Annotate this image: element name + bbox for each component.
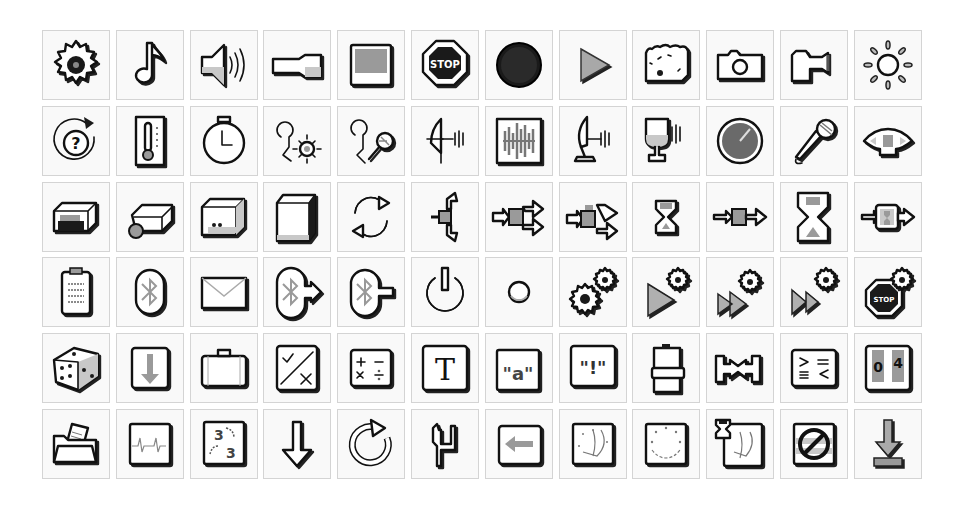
icon-cell-wait[interactable]	[854, 182, 922, 252]
download-arrow-icon	[860, 416, 916, 472]
icon-cell-compare[interactable]	[780, 333, 848, 403]
icon-cell-small-circle[interactable]	[485, 257, 553, 327]
icon-cell-prohibited[interactable]	[780, 409, 848, 479]
icon-cell-download[interactable]	[854, 409, 922, 479]
icon-cell-exclamation-text[interactable]: "!"	[559, 333, 627, 403]
brick-servo-icon	[122, 189, 178, 245]
icon-cell-timed-curve-graph[interactable]	[706, 409, 774, 479]
icon-cell-battery[interactable]	[632, 333, 700, 403]
icon-cell-briefcase[interactable]	[190, 333, 258, 403]
icon-cell-camera[interactable]	[706, 30, 774, 100]
text-t-label: T	[435, 352, 455, 387]
icon-cell-loop[interactable]	[337, 182, 405, 252]
icon-cell-power[interactable]	[411, 257, 479, 327]
icon-cell-step-shape[interactable]	[411, 409, 479, 479]
icon-cell-number-convert[interactable]: 33	[190, 409, 258, 479]
icon-cell-stop-gear[interactable]: STOP	[854, 257, 922, 327]
icon-cell-gear[interactable]	[42, 30, 110, 100]
icon-cell-stop-sign[interactable]: STOP	[411, 30, 479, 100]
icon-cell-sound-sensor[interactable]	[337, 106, 405, 176]
step-shape-icon	[417, 416, 473, 472]
icon-cell-ultrasonic[interactable]	[411, 106, 479, 176]
icon-cell-hourglass-small[interactable]	[632, 182, 700, 252]
text-t-icon: T	[417, 340, 473, 396]
stop-gear-icon: STOP	[860, 264, 916, 320]
icon-cell-sound-wave[interactable]	[485, 106, 553, 176]
icon-cell-bluetooth[interactable]	[116, 257, 184, 327]
pass-through-icon	[712, 189, 768, 245]
icon-cell-question-rotate[interactable]: ?	[42, 106, 110, 176]
brick-tall-icon	[269, 189, 325, 245]
circle-dots-graph-icon	[638, 416, 694, 472]
icon-cell-fast-forward-gear[interactable]	[706, 257, 774, 327]
icon-cell-brick-motor[interactable]	[42, 182, 110, 252]
stopwatch-icon	[196, 113, 252, 169]
icon-cell-logic[interactable]	[263, 333, 331, 403]
icon-cell-color-sensor[interactable]	[854, 106, 922, 176]
icon-cell-light-sensor[interactable]	[263, 106, 331, 176]
left-arrow-box-icon	[491, 416, 547, 472]
icon-cell-pass-through[interactable]	[706, 182, 774, 252]
number-convert-icon: 33	[196, 416, 252, 472]
icon-cell-thermometer[interactable]	[116, 106, 184, 176]
loop-arrows-icon	[343, 189, 399, 245]
icon-cell-hourglass-large[interactable]	[780, 182, 848, 252]
icon-cell-record[interactable]	[485, 30, 553, 100]
stop-label: STOP	[430, 59, 460, 70]
icon-cell-bluetooth-send[interactable]	[263, 257, 331, 327]
icon-cell-number-display[interactable]: 04	[854, 333, 922, 403]
icon-cell-circle-dots-graph[interactable]	[632, 409, 700, 479]
icon-cell-left-arrow-box[interactable]	[485, 409, 553, 479]
icon-cell-down-arrow[interactable]	[263, 409, 331, 479]
icon-cell-play-gear[interactable]	[632, 257, 700, 327]
bluetooth-send-icon	[269, 264, 325, 320]
icon-cell-sun[interactable]	[854, 30, 922, 100]
down-arrow-box-icon	[122, 340, 178, 396]
icon-cell-dice[interactable]	[42, 333, 110, 403]
icon-cell-bread[interactable]	[632, 30, 700, 100]
fast-forward-gear-icon	[712, 264, 768, 320]
icon-cell-curve-graph[interactable]	[559, 409, 627, 479]
icon-cell-open-folder[interactable]	[42, 409, 110, 479]
icon-cell-cup-speaker[interactable]	[632, 106, 700, 176]
icon-cell-gauge[interactable]	[706, 106, 774, 176]
icon-cell-music-note[interactable]	[116, 30, 184, 100]
icon-cell-brick-block[interactable]	[190, 182, 258, 252]
hourglass-large-icon	[786, 189, 842, 245]
icon-cell-display[interactable]	[337, 30, 405, 100]
icon-cell-skip-gear[interactable]	[780, 257, 848, 327]
icon-cell-math[interactable]	[337, 333, 405, 403]
icon-cell-stopwatch[interactable]	[190, 106, 258, 176]
icon-cell-text[interactable]: T	[411, 333, 479, 403]
icon-cell-range[interactable]	[706, 333, 774, 403]
icon-cell-play[interactable]	[559, 30, 627, 100]
microphone-icon	[786, 113, 842, 169]
question-mark-label: ?	[71, 134, 80, 153]
svg-text:0: 0	[873, 359, 883, 375]
icon-cell-clipboard[interactable]	[42, 257, 110, 327]
brick-block-icon	[196, 189, 252, 245]
icon-cell-fork-alt[interactable]	[559, 182, 627, 252]
icon-cell-down-arrow-box[interactable]	[116, 333, 184, 403]
icon-cell-gears[interactable]	[559, 257, 627, 327]
icon-cell-bluetooth-receive[interactable]	[337, 257, 405, 327]
icon-cell-flashlight[interactable]	[263, 30, 331, 100]
icon-cell-switch[interactable]	[411, 182, 479, 252]
icon-cell-rotate[interactable]	[337, 409, 405, 479]
icon-cell-microphone[interactable]	[780, 106, 848, 176]
rotate-arrow-icon	[343, 416, 399, 472]
icon-cell-text-variable[interactable]: "a"	[485, 333, 553, 403]
sound-sensor-probe-icon	[343, 113, 399, 169]
display-screen-icon	[343, 37, 399, 93]
icon-cell-brick-servo[interactable]	[116, 182, 184, 252]
icon-cell-speaker[interactable]	[190, 30, 258, 100]
sound-wave-icon	[491, 113, 547, 169]
icon-cell-projector[interactable]	[780, 30, 848, 100]
math-operators-icon	[343, 340, 399, 396]
icon-cell-envelope[interactable]	[190, 257, 258, 327]
icon-grid: STOP ?	[42, 30, 922, 479]
icon-cell-waveform[interactable]	[116, 409, 184, 479]
icon-cell-fork[interactable]	[485, 182, 553, 252]
icon-cell-brick-tall[interactable]	[263, 182, 331, 252]
icon-cell-satellite-dish[interactable]	[559, 106, 627, 176]
